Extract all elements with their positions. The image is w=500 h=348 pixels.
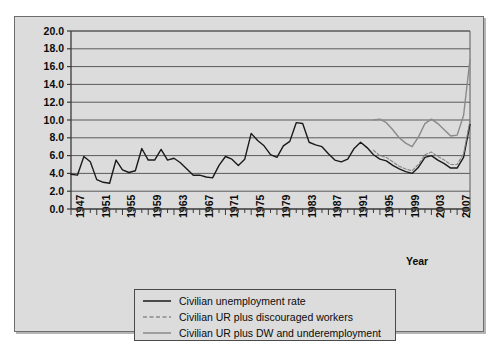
plot-area bbox=[15, 17, 485, 333]
dashed-gray-line-icon bbox=[142, 312, 172, 322]
solid-gray-line-icon bbox=[142, 328, 172, 338]
series-line-3 bbox=[373, 59, 470, 146]
chart-legend: Civilian unemployment rateCivilian UR pl… bbox=[134, 289, 396, 341]
legend-label: Civilian UR plus DW and underemployment bbox=[179, 327, 381, 339]
legend-item: Civilian unemployment rate bbox=[135, 293, 395, 309]
chart-panel: Rate (%) 0.02.04.06.08.010.012.014.016.0… bbox=[14, 16, 484, 332]
legend-item: Civilian UR plus DW and underemployment bbox=[135, 325, 395, 341]
series-line-1 bbox=[71, 123, 470, 184]
solid-black-line-icon bbox=[142, 296, 172, 306]
chart-figure: Rate (%) 0.02.04.06.08.010.012.014.016.0… bbox=[0, 0, 500, 348]
legend-label: Civilian unemployment rate bbox=[179, 295, 306, 307]
legend-label: Civilian UR plus discouraged workers bbox=[179, 311, 353, 323]
legend-item: Civilian UR plus discouraged workers bbox=[135, 309, 395, 325]
